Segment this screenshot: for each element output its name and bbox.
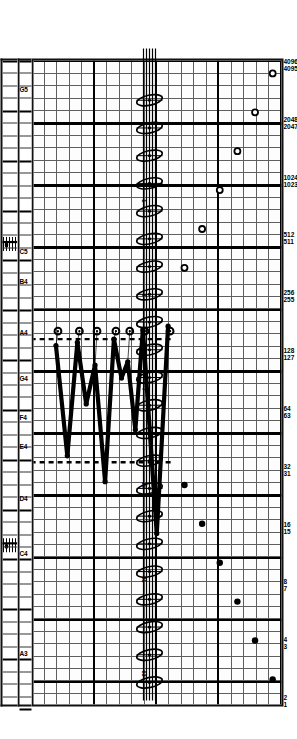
strip-gridline xyxy=(19,347,31,348)
strip-gridline xyxy=(19,484,31,485)
note-name-label-8: C4 xyxy=(19,549,27,556)
note-name-strip: G5C5B4A4G4F4E4D4C4A3 xyxy=(17,58,31,706)
strip-gridline xyxy=(2,222,17,223)
strip-gridline xyxy=(19,671,31,672)
axis-tick-lower: 511 xyxy=(283,237,294,244)
axis-tick-upper: 16 xyxy=(283,520,290,527)
strip-gridline xyxy=(2,621,17,622)
strip-gridline xyxy=(19,272,31,273)
axis-tick-lower: 3 xyxy=(283,642,287,649)
strip-gridline xyxy=(2,160,17,162)
axis-tick-upper: 4096 xyxy=(283,57,297,64)
point-upper-filled-circles-a-2 xyxy=(234,598,240,604)
strip-gridline xyxy=(19,135,31,136)
strip-gridline xyxy=(19,185,31,186)
strip-gridline xyxy=(19,434,31,435)
strip-gridline xyxy=(19,571,31,572)
point-upper-filled-circles-a-4 xyxy=(198,520,204,526)
strip-gridline xyxy=(2,571,17,572)
strip-gridline xyxy=(19,708,31,710)
series-upper-open-circles xyxy=(181,70,275,270)
strip-gridline xyxy=(2,696,17,697)
note-name-label-5: F4 xyxy=(19,413,26,420)
axis-tick-lower: 31 xyxy=(283,469,290,476)
strip-gridline xyxy=(19,122,31,123)
strip-gridline xyxy=(19,596,31,597)
point-upper-open-circles-3 xyxy=(216,187,222,193)
series-zigzag-path xyxy=(53,323,173,536)
strip-gridline xyxy=(19,658,31,660)
strip-gridline xyxy=(2,521,17,522)
strip-gridline xyxy=(2,297,17,298)
point-upper-open-circles-2 xyxy=(234,148,240,154)
strip-gridline xyxy=(19,646,31,647)
strip-gridline xyxy=(2,633,17,634)
strip-gridline xyxy=(2,110,17,112)
note-name-label-2: B4 xyxy=(19,277,27,284)
strip-gridline xyxy=(19,384,31,385)
strip-gridline xyxy=(2,658,17,660)
strip-gridline xyxy=(19,197,31,198)
strip-gridline xyxy=(19,396,31,397)
plot-panel xyxy=(31,58,283,706)
strip-gridline xyxy=(2,396,17,397)
strip-gridline xyxy=(19,97,31,98)
strip-gridline xyxy=(19,359,31,361)
strip-gridline xyxy=(2,546,17,547)
strip-gridline xyxy=(19,558,31,560)
strip-gridline xyxy=(2,558,17,560)
axis-tick-lower: 1 xyxy=(283,700,287,707)
strip-gridline xyxy=(2,122,17,123)
axis-tick-lower: 1023 xyxy=(283,180,297,187)
axis-tick-lower: 4095 xyxy=(283,64,297,71)
axis-tick-lower: 15 xyxy=(283,527,290,534)
strip-gridline xyxy=(19,297,31,298)
strip-gridline xyxy=(2,135,17,136)
strip-gridline xyxy=(19,234,31,235)
axis-tick-upper: 32 xyxy=(283,462,290,469)
strip-gridline xyxy=(19,372,31,373)
strip-gridline xyxy=(2,72,17,73)
strip-gridline xyxy=(2,259,17,261)
strip-gridline xyxy=(2,608,17,610)
strip-gridline xyxy=(19,608,31,610)
strip-gridline xyxy=(19,534,31,535)
strip-gridline xyxy=(2,210,17,212)
strip-gridline xyxy=(2,496,17,497)
ringed-marker-core-10 xyxy=(78,330,80,332)
strip-gridline xyxy=(2,484,17,485)
strip-gridline xyxy=(2,272,17,273)
strip-gridline xyxy=(19,110,31,112)
strip-gridline xyxy=(19,172,31,173)
ringed-marker-core-4 xyxy=(128,330,130,332)
strip-gridline xyxy=(2,434,17,435)
strip-gridline xyxy=(19,222,31,223)
axis-tick-upper: 1024 xyxy=(283,173,297,180)
strip-gridline xyxy=(19,471,31,472)
strip-gridline xyxy=(19,633,31,634)
axis-tick-lower: 63 xyxy=(283,411,290,418)
note-name-label-4: G4 xyxy=(19,374,27,381)
strip-gridline xyxy=(19,621,31,622)
strip-gridline xyxy=(19,72,31,73)
strip-gridline xyxy=(19,322,31,323)
strip-gridline xyxy=(2,347,17,348)
point-upper-open-circles-5 xyxy=(181,264,187,270)
point-upper-filled-circles-a-0 xyxy=(269,676,275,682)
point-upper-open-circles-4 xyxy=(199,225,205,231)
clef-glyph-1 xyxy=(0,538,17,552)
strip-gridline xyxy=(2,446,17,447)
point-upper-filled-circles-a-5 xyxy=(181,481,187,487)
strip-gridline xyxy=(2,85,17,86)
strip-gridline xyxy=(19,683,31,684)
axis-tick-upper: 256 xyxy=(283,288,294,295)
axis-tick-lower: 7 xyxy=(283,584,287,591)
strip-gridline xyxy=(19,409,31,411)
note-name-label-1: C5 xyxy=(19,247,27,254)
strip-gridline xyxy=(2,683,17,684)
strip-gridline xyxy=(2,247,17,248)
axis-tick-upper: 512 xyxy=(283,230,294,237)
strip-gridline xyxy=(2,459,17,461)
axis-tick-upper: 2048 xyxy=(283,115,297,122)
figure-canvas: 4096409520482047102410235125112562551281… xyxy=(0,0,297,739)
